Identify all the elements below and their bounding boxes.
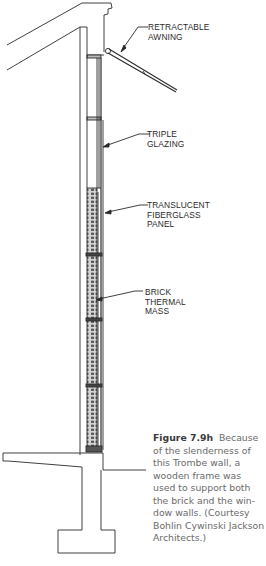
- label-retractable-awning: RETRACTABLE AWNING: [148, 23, 209, 42]
- leader-lines: [96, 27, 150, 301]
- foundation: [3, 453, 146, 553]
- figure-caption: Figure 7.9h Because of the slenderness o…: [153, 432, 265, 545]
- caption-text: Because of the slenderness of this Tromb…: [153, 432, 264, 543]
- label-translucent-fiberglass-panel: TRANSLUCENT FIBERGLASS PANEL: [147, 201, 210, 230]
- label-brick-thermal-mass: BRICK THERMAL MASS: [145, 288, 186, 317]
- label-line: MASS: [145, 307, 186, 317]
- label-line: AWNING: [148, 33, 209, 43]
- label-triple-glazing: TRIPLE GLAZING: [147, 130, 184, 149]
- label-line: GLAZING: [147, 140, 184, 150]
- figure-number: Figure 7.9h: [153, 432, 213, 443]
- label-line: PANEL: [147, 220, 210, 230]
- retractable-awning: [105, 48, 177, 92]
- brick-thermal-mass: [86, 188, 102, 452]
